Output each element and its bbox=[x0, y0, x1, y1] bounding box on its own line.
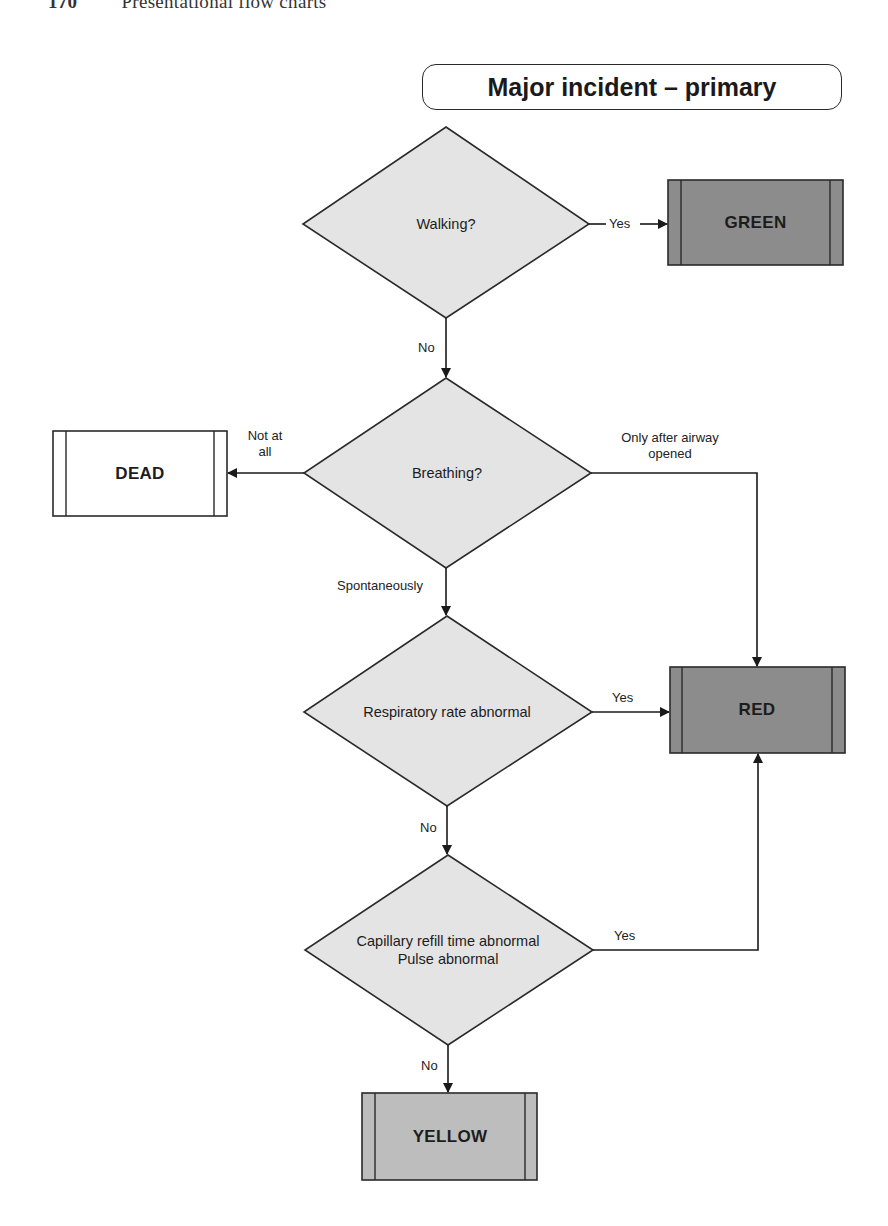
edge-label-capillary-yes: Yes bbox=[614, 928, 635, 944]
outcome-dead-label: DEAD bbox=[66, 431, 214, 516]
decision-capillary-line2: Pulse abnormal bbox=[398, 950, 499, 968]
edge-label-capillary-no: No bbox=[421, 1058, 438, 1074]
edge-label-not-at-all-line2: all bbox=[240, 444, 290, 460]
outcome-green-label: GREEN bbox=[681, 180, 830, 265]
edge-label-not-at-all-line1: Not at bbox=[240, 428, 290, 444]
edge-breathing-red bbox=[591, 473, 757, 666]
edge-label-not-at-all: Not at all bbox=[240, 428, 290, 460]
edge-label-airway-line2: opened bbox=[600, 446, 740, 462]
edge-label-walking-yes: Yes bbox=[609, 216, 630, 232]
edge-label-walking-no: No bbox=[418, 340, 435, 356]
outcome-yellow-label: YELLOW bbox=[375, 1093, 525, 1180]
outcome-red-label: RED bbox=[682, 667, 832, 753]
edge-label-respiratory-no: No bbox=[420, 820, 437, 836]
decision-capillary-text: Capillary refill time abnormal Pulse abn… bbox=[316, 925, 580, 975]
edge-capillary-red bbox=[593, 754, 758, 950]
decision-breathing-text: Breathing? bbox=[334, 455, 560, 491]
decision-respiratory-text: Respiratory rate abnormal bbox=[324, 694, 570, 730]
edge-label-airway-line1: Only after airway bbox=[600, 430, 740, 446]
decision-walking-text: Walking? bbox=[333, 206, 559, 242]
edge-label-spontaneously: Spontaneously bbox=[337, 578, 423, 594]
edge-label-respiratory-yes: Yes bbox=[612, 690, 633, 706]
decision-capillary-line1: Capillary refill time abnormal bbox=[357, 932, 540, 950]
edge-label-airway-opened: Only after airway opened bbox=[600, 430, 740, 462]
